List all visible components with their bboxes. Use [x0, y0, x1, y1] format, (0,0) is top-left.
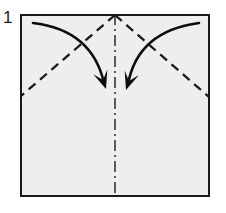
- origami-figure: [0, 0, 226, 213]
- origami-step-diagram: 1: [0, 0, 226, 213]
